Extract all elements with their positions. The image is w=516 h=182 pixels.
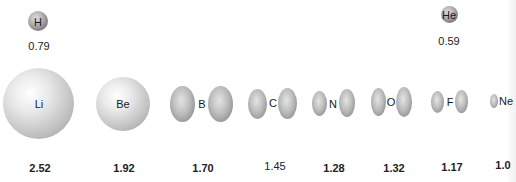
radius-value: 1.70 xyxy=(192,162,213,174)
radius-value: 1.17 xyxy=(441,161,462,173)
element-symbol: O xyxy=(387,96,396,108)
radius-value: 0.59 xyxy=(438,35,459,47)
radius-value: 1.92 xyxy=(113,162,134,174)
element-symbol: H xyxy=(34,16,42,28)
radius-value: 0.79 xyxy=(28,40,49,52)
orbital-lobe-left-icon xyxy=(371,88,386,116)
orbital-lobe-left-icon xyxy=(170,86,195,122)
element-symbol: Be xyxy=(116,98,129,110)
orbital-lobe-right-icon xyxy=(455,90,468,113)
orbital-lobe-left-icon xyxy=(431,91,444,113)
page-edge xyxy=(508,0,516,182)
orbital-lobe-right-icon xyxy=(208,86,233,122)
orbital-lobe-right-icon xyxy=(396,87,412,117)
radius-value: 1.28 xyxy=(323,162,344,174)
orbital-lobe-right-icon xyxy=(278,88,297,119)
orbital-lobe-left-icon xyxy=(312,91,327,116)
radius-value: 1.0 xyxy=(495,159,510,171)
element-symbol: N xyxy=(329,98,337,110)
element-symbol: Li xyxy=(35,98,44,110)
radius-value: 1.32 xyxy=(383,162,404,174)
element-symbol: Ne xyxy=(499,95,513,107)
element-symbol: C xyxy=(269,97,277,109)
radius-value: 2.52 xyxy=(29,162,50,174)
orbital-lobe-left-icon xyxy=(248,89,267,119)
orbital-lobe-left-icon xyxy=(490,94,498,108)
element-symbol: B xyxy=(198,98,205,110)
element-symbol: He xyxy=(442,9,456,21)
orbital-lobe-right-icon xyxy=(339,89,355,117)
element-symbol: F xyxy=(447,96,454,108)
radius-value: 1.45 xyxy=(264,160,285,172)
